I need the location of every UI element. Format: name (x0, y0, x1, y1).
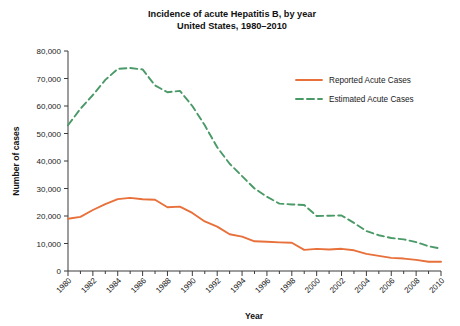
x-tick-label: 1990 (179, 276, 198, 295)
x-tick-label: 2002 (328, 276, 347, 295)
y-tick-label: 80,000 (37, 47, 62, 56)
x-tick-label: 1996 (253, 276, 272, 295)
x-tick-label: 2006 (378, 276, 397, 295)
chart-title: Incidence of acute Hepatitis B, by year (148, 9, 316, 19)
x-tick-label: 2000 (303, 276, 322, 295)
chart-subtitle: United States, 1980–2010 (177, 21, 287, 31)
x-tick-label: 1992 (204, 276, 223, 295)
y-tick-label: 10,000 (37, 240, 62, 249)
x-tick-label: 1994 (229, 276, 248, 295)
x-tick-label: 2008 (403, 276, 422, 295)
x-tick-label: 1982 (79, 276, 98, 295)
x-tick-label: 1998 (278, 276, 297, 295)
chart-legend: Reported Acute CasesEstimated Acute Case… (296, 76, 414, 104)
x-tick-label: 1988 (154, 276, 173, 295)
y-tick-label: 60,000 (37, 102, 62, 111)
x-tick-label: 2010 (427, 276, 446, 295)
x-tick-label: 1986 (129, 276, 148, 295)
series-line-0 (68, 198, 441, 262)
legend-label-1: Estimated Acute Cases (329, 95, 414, 104)
y-tick-label: 70,000 (37, 75, 62, 84)
legend-label-0: Reported Acute Cases (329, 76, 411, 85)
y-axis: 010,00020,00030,00040,00050,00060,00070,… (11, 47, 68, 276)
chart-canvas: Incidence of acute Hepatitis B, by year … (0, 0, 460, 326)
y-tick-label: 50,000 (37, 130, 62, 139)
x-tick-label: 1980 (54, 276, 73, 295)
x-axis: 1980198219841986198819901992199419961998… (54, 271, 446, 321)
y-tick-label: 20,000 (37, 212, 62, 221)
x-axis-title: Year (245, 311, 264, 321)
y-tick-label: 40,000 (37, 157, 62, 166)
x-tick-label: 2004 (353, 276, 372, 295)
x-tick-label: 1984 (104, 276, 123, 295)
hepatitis-b-incidence-chart: Incidence of acute Hepatitis B, by year … (0, 0, 460, 326)
y-tick-label: 30,000 (37, 185, 62, 194)
y-axis-title: Number of cases (11, 126, 21, 195)
y-tick-label: 0 (57, 267, 62, 276)
